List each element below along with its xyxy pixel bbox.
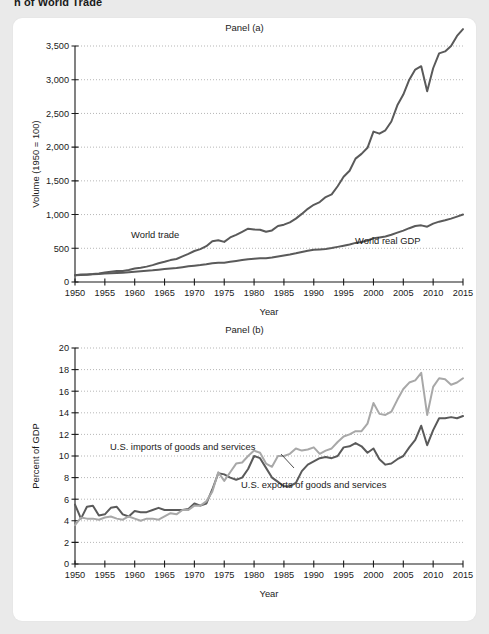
figure-title: h of World Trade [14,0,102,8]
x-tick-label: 1950 [65,570,85,580]
label-us-imports: U.S. imports of goods and services [110,441,256,452]
x-tick-label: 1995 [333,288,353,298]
x-tick-label: 2005 [393,570,413,580]
y-tick-label: 2 [64,538,69,548]
y-tick-label: 14 [59,408,69,418]
x-tick-label: 1970 [184,288,204,298]
x-tick-label: 1960 [124,288,144,298]
y-axis-title: Percent of GDP [30,423,41,489]
label-world-trade: World trade [131,229,179,240]
panel-b-chart: 0246810121416182019501955196019651970197… [13,324,476,621]
y-tick-label: 1,000 [46,210,69,220]
x-tick-label: 2015 [453,288,473,298]
x-tick-label: 1990 [304,570,324,580]
y-tick-label: 3,500 [46,41,69,51]
x-axis-title: Year [260,588,279,599]
x-tick-label: 1975 [214,288,234,298]
y-tick-label: 12 [59,430,69,440]
x-tick-label: 1965 [154,570,174,580]
y-tick-label: 3,000 [46,75,69,85]
x-tick-label: 1965 [154,288,174,298]
x-tick-label: 1980 [244,570,264,580]
y-tick-label: 16 [59,387,69,397]
y-tick-label: 18 [59,365,69,375]
y-tick-label: 0 [64,559,69,569]
x-tick-label: 2000 [363,288,383,298]
x-tick-label: 1980 [244,288,264,298]
y-tick-label: 2,000 [46,142,69,152]
label-us-exports: U.S. exports of goods and services [241,479,387,490]
y-tick-label: 500 [54,244,69,254]
x-tick-label: 2010 [423,570,443,580]
x-tick-label: 1990 [304,288,324,298]
x-tick-label: 2000 [363,570,383,580]
x-tick-label: 2015 [453,570,473,580]
x-tick-label: 1960 [124,570,144,580]
figure-card: Panel (a) 05001,0001,5002,0002,5003,0003… [13,18,476,621]
y-tick-label: 0 [64,277,69,287]
x-tick-label: 2010 [423,288,443,298]
label-world-real-gdp: World real GDP [355,235,420,246]
panel-a: Panel (a) 05001,0001,5002,0002,5003,0003… [13,22,476,322]
y-tick-label: 8 [64,473,69,483]
panel-a-chart: 05001,0001,5002,0002,5003,0003,500195019… [13,22,476,322]
x-tick-label: 1955 [95,288,115,298]
x-tick-label: 1985 [274,288,294,298]
y-tick-label: 4 [64,516,69,526]
x-tick-label: 1950 [65,288,85,298]
y-axis-title: Volume (1950 = 100) [30,120,41,207]
y-tick-label: 10 [59,451,69,461]
y-tick-label: 6 [64,495,69,505]
x-tick-label: 2005 [393,288,413,298]
y-tick-label: 20 [59,343,69,353]
x-tick-label: 1970 [184,570,204,580]
x-axis-title: Year [260,306,279,317]
x-tick-label: 1995 [333,570,353,580]
leader-line [281,454,294,468]
x-tick-label: 1985 [274,570,294,580]
y-tick-label: 1,500 [46,176,69,186]
series-line [75,416,463,519]
x-tick-label: 1955 [95,570,115,580]
y-tick-label: 2,500 [46,109,69,119]
x-tick-label: 1975 [214,570,234,580]
panel-b: Panel (b) 024681012141618201950195519601… [13,324,476,621]
